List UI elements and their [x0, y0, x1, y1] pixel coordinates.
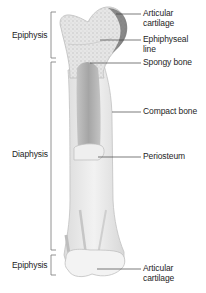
bone-body: [60, 7, 127, 277]
label-compact-bone: Compact bone: [143, 107, 197, 117]
articular-cartilage-bottom-shape: [65, 249, 125, 276]
bracket-epiphysis-top: [51, 12, 56, 58]
label-articular-cartilage-bottom: Articular cartilage: [143, 264, 191, 283]
bone-diagram: Epiphysis Diaphysis Epiphysis Articular …: [0, 0, 206, 293]
label-epiphysis-bottom: Epiphysis: [12, 261, 47, 271]
label-spongy-bone: Spongy bone: [143, 58, 192, 68]
label-periosteum: Periosteum: [143, 152, 185, 162]
label-diaphysis: Diaphysis: [12, 150, 48, 160]
label-articular-cartilage-top: Articular cartilage: [143, 9, 191, 28]
periosteum-flap: [74, 144, 104, 160]
label-epiphysis-top: Epiphysis: [12, 31, 47, 41]
label-epiphyseal-line: Ephiphyseal line: [143, 35, 187, 54]
bracket-epiphysis-bottom: [51, 255, 56, 275]
marrow-cavity: [77, 62, 101, 150]
bracket-diaphysis: [51, 62, 56, 250]
